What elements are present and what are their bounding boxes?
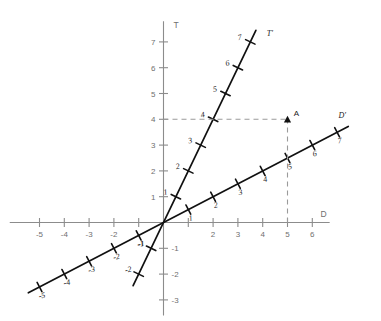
minkowski-diagram-svg: -5-4-3-2234567654321-1-2-3DT-5-4-3-2-112… <box>0 0 381 321</box>
d-axis-tick-label: -5 <box>36 230 44 239</box>
t-prime-axis-tick-label: 3 <box>186 136 193 146</box>
d-prime-axis-tick-label: 1 <box>188 213 194 223</box>
t-prime-axis-tick-label: 5 <box>212 84 218 94</box>
d-prime-axis-tick-label: 2 <box>213 200 219 210</box>
t-prime-axis-tick-label: -2 <box>124 265 132 275</box>
t-axis-tick-label: 4 <box>151 115 156 124</box>
d-axis-tick-label: -3 <box>86 230 94 239</box>
t-axis-name: T <box>174 20 179 30</box>
d-prime-axis-tick-label: 3 <box>237 188 244 198</box>
point-a-label: A <box>294 109 300 118</box>
d-prime-axis-tick-label: 4 <box>262 175 268 185</box>
spacetime-diagram: -5-4-3-2234567654321-1-2-3DT-5-4-3-2-112… <box>0 0 381 321</box>
d-axis-tick-label: 2 <box>211 230 216 239</box>
d-prime-axis-tick-label: -5 <box>38 290 46 300</box>
t-axis-tick-label: 7 <box>151 38 156 47</box>
d-prime-axis-name: D' <box>338 111 347 120</box>
d-prime-axis-tick-label: -4 <box>63 278 71 288</box>
d-axis-tick-label: -4 <box>61 230 69 239</box>
t-axis-tick-label: -2 <box>172 270 180 279</box>
t-prime-axis-tick-label: 7 <box>237 32 244 42</box>
d-axis-tick-label: 6 <box>310 230 315 239</box>
t-axis-tick-label: 5 <box>151 90 156 99</box>
t-axis-tick-label: 6 <box>151 64 156 73</box>
d-axis-tick-label: 3 <box>236 230 241 239</box>
d-axis-name: D <box>320 209 326 219</box>
d-prime-axis-tick-label: -2 <box>112 252 120 262</box>
t-prime-axis-tick-label: 6 <box>224 58 230 68</box>
d-prime-axis-tick-label: 6 <box>312 149 318 159</box>
d-axis-tick-label: 4 <box>260 230 265 239</box>
d-axis-tick-label: 5 <box>285 230 290 239</box>
t-prime-axis-name: T' <box>267 29 273 38</box>
t-prime-axis-tick-label: 1 <box>162 187 168 197</box>
t-axis-tick-label: 1 <box>151 193 156 202</box>
t-axis-tick-label: 2 <box>151 167 156 176</box>
d-prime-axis-tick-label: 7 <box>337 136 344 146</box>
d-axis-tick-label: -2 <box>110 230 118 239</box>
t-axis-tick-label: -3 <box>172 296 180 305</box>
t-axis-tick-label: -1 <box>172 244 180 253</box>
d-prime-axis-tick-label: -3 <box>87 265 95 275</box>
t-prime-axis-tick-label: 2 <box>175 162 181 172</box>
t-prime-axis-tick-label: 4 <box>200 110 206 120</box>
t-axis-tick-label: 3 <box>151 141 156 150</box>
